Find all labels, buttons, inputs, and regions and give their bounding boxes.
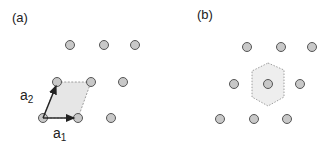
lattice-point	[250, 115, 259, 124]
lattice-point	[283, 115, 292, 124]
panel-a-label: (a)	[12, 10, 28, 25]
panel-b: (b)	[197, 7, 317, 124]
lattice-point	[230, 80, 239, 89]
vector-a1-label: a1	[53, 125, 67, 143]
panel-b-label: (b)	[197, 7, 213, 22]
lattice-point	[308, 43, 317, 52]
lattice-point-center	[264, 80, 273, 89]
lattice-point	[277, 43, 286, 52]
lattice-points-b	[216, 43, 317, 124]
lattice-point	[66, 41, 75, 50]
lattice-point	[243, 43, 252, 52]
lattice-diagram: (a) a2 a1 (b)	[0, 0, 334, 149]
lattice-point	[296, 80, 305, 89]
lattice-point	[53, 78, 62, 87]
lattice-point	[87, 78, 96, 87]
lattice-point	[107, 114, 116, 123]
lattice-point	[119, 78, 128, 87]
lattice-point	[74, 114, 83, 123]
vector-a2-label: a2	[20, 87, 34, 105]
lattice-point	[131, 41, 140, 50]
lattice-point	[100, 41, 109, 50]
panel-a: (a) a2 a1	[12, 10, 140, 143]
lattice-point	[216, 115, 225, 124]
